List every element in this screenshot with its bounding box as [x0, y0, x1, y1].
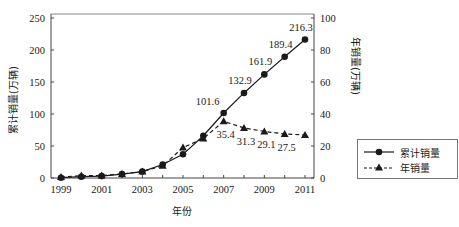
y-tick-label: 150 — [29, 77, 45, 88]
x-axis-title: 年份 — [172, 205, 192, 217]
x-tick-label: 2009 — [254, 184, 275, 195]
right-axis-ticks: 020406080100 — [311, 13, 336, 184]
y-tick-label: 50 — [35, 141, 46, 152]
x-tick-label: 2001 — [91, 184, 112, 195]
y2-tick-label: 80 — [320, 45, 331, 56]
x-tick-label: 2005 — [173, 184, 194, 195]
y2-tick-label: 0 — [320, 173, 325, 184]
data-label: 35.4 — [216, 129, 235, 140]
y-tick-label: 250 — [29, 13, 45, 24]
chart-canvas: 050100150200250 020406080100 19992001200… — [0, 0, 459, 227]
data-label: 31.3 — [237, 136, 255, 147]
y2-tick-label: 40 — [320, 109, 331, 120]
x-tick-label: 2003 — [132, 184, 153, 195]
legend-item-cumulative: 累计销量 — [364, 145, 440, 159]
dashed-line-triangle-marker-icon — [364, 162, 394, 172]
data-labels: 101.6132.9161.9189.4216.335.431.329.127.… — [196, 22, 313, 153]
data-label: 189.4 — [269, 39, 293, 50]
legend: 累计销量 年销量 — [357, 139, 458, 179]
data-label: 132.9 — [228, 75, 252, 86]
data-label: 161.9 — [249, 56, 273, 67]
left-axis-ticks: 050100150200250 — [29, 13, 54, 184]
legend-label: 年销量 — [400, 160, 430, 175]
y2-tick-label: 100 — [320, 13, 336, 24]
y2-tick-label: 60 — [320, 77, 331, 88]
x-tick-label: 2011 — [295, 184, 316, 195]
data-label: 101.6 — [196, 96, 220, 107]
y2-axis-title: 年销量(万辆) — [350, 37, 362, 95]
y-tick-label: 100 — [29, 109, 45, 120]
y-tick-label: 200 — [29, 45, 45, 56]
x-tick-label: 1999 — [51, 184, 72, 195]
x-tick-label: 2007 — [213, 184, 234, 195]
solid-line-circle-marker-icon — [364, 147, 394, 157]
y-axis-title: 累计销量(万辆) — [7, 66, 19, 134]
legend-label: 累计销量 — [400, 145, 440, 160]
data-label: 27.5 — [277, 142, 295, 153]
data-label: 29.1 — [257, 139, 275, 150]
data-label: 216.3 — [289, 22, 313, 33]
legend-item-annual: 年销量 — [364, 160, 430, 174]
y2-tick-label: 20 — [320, 141, 331, 152]
y-tick-label: 0 — [40, 173, 45, 184]
